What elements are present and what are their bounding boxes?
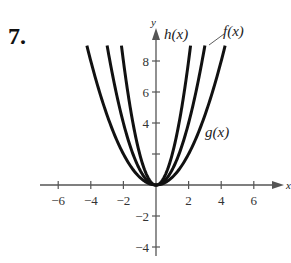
graph: 7. xy−6−4−2246−4−2468 h(x)f(x)g(x) bbox=[0, 0, 291, 263]
axes: xy−6−4−2246−4−2468 bbox=[40, 16, 291, 256]
label-f: f(x) bbox=[223, 23, 244, 40]
x-axis-arrow-icon bbox=[272, 181, 284, 189]
x-tick-label: −4 bbox=[84, 193, 98, 208]
label-f-leader bbox=[209, 34, 224, 45]
y-axis-arrow-icon bbox=[152, 28, 160, 40]
x-tick-label: 4 bbox=[218, 193, 225, 208]
y-tick-label: 6 bbox=[143, 85, 150, 100]
y-tick-label: 8 bbox=[143, 54, 150, 69]
x-tick-label: 6 bbox=[251, 193, 258, 208]
y-tick-label: −2 bbox=[135, 209, 149, 224]
x-tick-label: 2 bbox=[185, 193, 192, 208]
curve-labels: h(x)f(x)g(x) bbox=[164, 23, 244, 141]
x-tick-label: −2 bbox=[116, 193, 130, 208]
y-tick-label: −4 bbox=[135, 240, 149, 255]
label-h: h(x) bbox=[164, 26, 188, 43]
y-tick-label: 4 bbox=[143, 116, 150, 131]
y-axis-label: y bbox=[150, 16, 156, 28]
x-tick-label: −6 bbox=[51, 193, 65, 208]
problem-number: 7. bbox=[8, 23, 26, 49]
x-axis-label: x bbox=[285, 179, 291, 191]
label-g: g(x) bbox=[205, 124, 229, 141]
